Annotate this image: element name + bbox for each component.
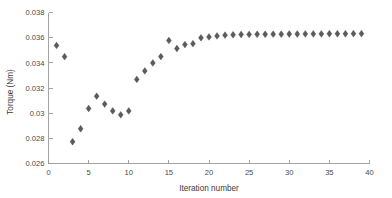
y-tick-label: 0.036 (25, 33, 44, 42)
data-point-marker (126, 108, 131, 115)
x-tick-label: 5 (87, 168, 91, 177)
data-point-marker (359, 30, 364, 37)
data-point-marker (78, 125, 83, 132)
x-tick-label: 10 (125, 168, 133, 177)
chart-figure: 0.0260.0280.030.0320.0340.0360.038 05101… (0, 0, 392, 198)
data-point-marker (207, 34, 212, 41)
data-point-marker (198, 34, 203, 41)
data-point-marker (263, 31, 268, 38)
data-point-marker (343, 30, 348, 37)
data-point-marker (94, 93, 99, 100)
data-point-marker (231, 31, 236, 38)
x-tick-label: 20 (205, 168, 213, 177)
x-tick-label: 30 (285, 168, 293, 177)
data-point-marker (134, 76, 139, 83)
data-point-marker (150, 60, 155, 67)
data-point-marker (62, 53, 67, 60)
data-point-marker (279, 31, 284, 38)
data-point-marker (174, 45, 179, 52)
data-point-marker (351, 30, 356, 37)
data-point-marker (335, 30, 340, 37)
data-point-marker (319, 30, 324, 37)
data-series-markers (54, 30, 364, 145)
x-tick-label: 40 (365, 168, 373, 177)
data-point-marker (287, 31, 292, 38)
data-point-marker (166, 37, 171, 44)
data-point-marker (102, 101, 107, 108)
y-tick-label: 0.038 (25, 8, 44, 17)
x-axis-label: Iteration number (179, 184, 239, 193)
data-point-marker (182, 41, 187, 48)
data-point-marker (86, 105, 91, 112)
data-point-marker (54, 42, 59, 49)
x-tick-label: 0 (46, 168, 50, 177)
y-tick-label: 0.032 (25, 84, 44, 93)
y-tick-label: 0.026 (25, 159, 44, 168)
data-point-marker (303, 30, 308, 37)
x-tick-label: 25 (245, 168, 253, 177)
data-point-marker (110, 108, 115, 115)
data-point-marker (255, 31, 260, 38)
x-axis-ticks: 0510152025303540 (46, 160, 373, 177)
data-point-marker (118, 111, 123, 118)
data-point-marker (142, 67, 147, 74)
y-tick-label: 0.03 (30, 109, 45, 118)
y-tick-label: 0.028 (25, 134, 44, 143)
data-point-marker (247, 31, 252, 38)
y-axis-label: Torque (Nm) (6, 69, 15, 115)
scatter-plot: 0.0260.0280.030.0320.0340.0360.038 05101… (0, 0, 392, 198)
data-point-marker (311, 30, 316, 37)
data-point-marker (190, 40, 195, 47)
data-point-marker (327, 30, 332, 37)
x-tick-label: 15 (165, 168, 173, 177)
data-point-marker (70, 138, 75, 145)
data-point-marker (215, 33, 220, 40)
data-point-marker (223, 32, 228, 39)
data-point-marker (295, 31, 300, 38)
data-point-marker (271, 31, 276, 38)
data-point-marker (239, 31, 244, 38)
x-tick-label: 35 (325, 168, 333, 177)
y-tick-label: 0.034 (25, 59, 44, 68)
data-point-marker (158, 53, 163, 60)
